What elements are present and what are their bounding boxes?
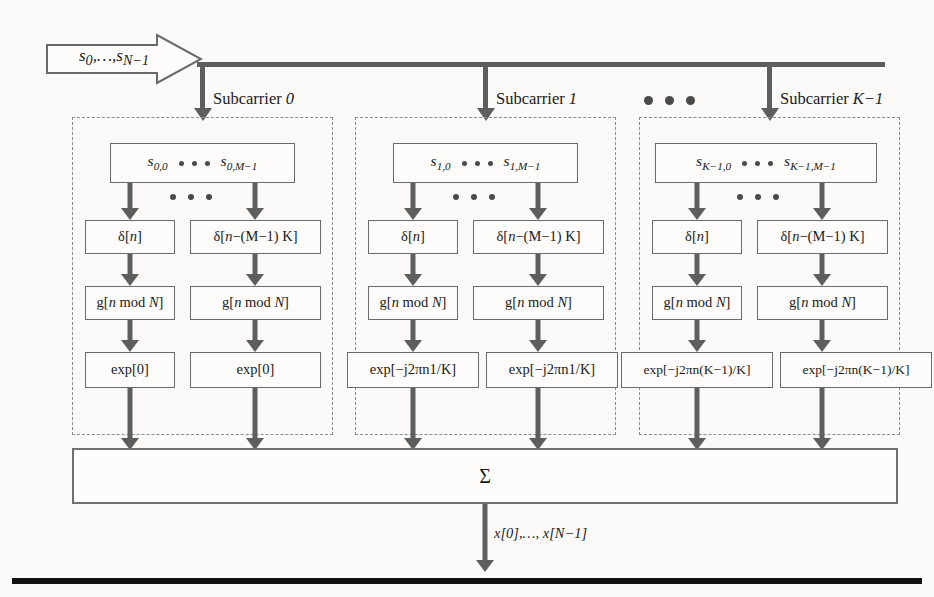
symbol-box-k-1: sK−1,0 sK−1,M−1 (655, 143, 877, 183)
g-box-0-1: g[n mod N] (190, 286, 321, 320)
exp-box-1-1: exp[−j2πn1/K] (486, 352, 618, 388)
arrow-delta-to-g-k-1-0 (677, 254, 717, 286)
g-box-0-0: g[n mod N] (85, 286, 175, 320)
arrow-delta-to-g-0-1 (235, 254, 275, 286)
g-box-k-1-1: g[n mod N] (757, 286, 888, 320)
symbol-box-1: s1,0 s1,M−1 (393, 143, 578, 183)
distribution-bus (197, 62, 885, 67)
exp-box-0-0: exp[0] (85, 352, 175, 388)
arrow-symbol-to-delta-k-1-1 (802, 183, 842, 220)
delta-box-0-1: δ[n−(M−1) K] (190, 220, 321, 254)
arrow-g-to-exp-k-1-0 (677, 320, 717, 352)
delta-box-k-1-1: δ[n−(M−1) K] (757, 220, 888, 254)
arrow-exp-to-sum-0-0 (110, 388, 150, 450)
g-box-k-1-0: g[n mod N] (652, 286, 742, 320)
branch-ellipsis-k-1 (737, 194, 779, 200)
arrow-exp-to-sum-k-1-0 (677, 388, 717, 450)
arrow-symbol-to-delta-1-1 (518, 183, 558, 220)
output-signal-label: x[0],…, x[N−1] (494, 525, 587, 542)
arrow-g-to-exp-0-0 (110, 320, 150, 352)
g-box-1-1: g[n mod N] (473, 286, 604, 320)
exp-box-k-1-1: exp[−j2πn(K−1)/K] (780, 352, 932, 388)
input-block-arrow: s0,…,sN−1 (45, 33, 203, 85)
diagram-canvas: s0,…,sN−1 Subcarrier 0 Subcarrier 1 Subc… (0, 0, 934, 597)
arrow-delta-to-g-k-1-1 (802, 254, 842, 286)
arrow-exp-to-sum-0-1 (235, 388, 275, 450)
delta-box-k-1-0: δ[n] (652, 220, 742, 254)
delta-box-1-1: δ[n−(M−1) K] (473, 220, 604, 254)
arrow-exp-to-sum-1-0 (393, 388, 433, 450)
exp-box-0-1: exp[0] (190, 352, 321, 388)
subcarrier-ellipsis (644, 96, 695, 105)
exp-box-1-0: exp[−j2πn1/K] (347, 352, 479, 388)
delta-box-1-0: δ[n] (368, 220, 458, 254)
subcarrier-caption-1: Subcarrier 1 (496, 89, 577, 109)
bus-drop-subcarrier-k-1 (767, 62, 772, 110)
symbol-box-ellipsis-0 (179, 161, 210, 166)
arrow-exp-to-sum-k-1-1 (802, 388, 842, 450)
delta-box-0-0: δ[n] (85, 220, 175, 254)
arrow-delta-to-g-0-0 (110, 254, 150, 286)
branch-ellipsis-1 (453, 194, 495, 200)
page-rule (12, 578, 922, 584)
symbol-box-ellipsis-1 (462, 161, 493, 166)
exp-box-k-1-0: exp[−j2πn(K−1)/K] (621, 352, 773, 388)
arrow-exp-to-sum-1-1 (518, 388, 558, 450)
arrow-delta-to-g-1-1 (518, 254, 558, 286)
branch-ellipsis-0 (170, 194, 212, 200)
arrow-symbol-to-delta-k-1-0 (677, 183, 717, 220)
arrow-g-to-exp-0-1 (235, 320, 275, 352)
arrow-g-to-exp-1-1 (518, 320, 558, 352)
bus-drop-subcarrier-1 (483, 62, 488, 110)
arrow-g-to-exp-k-1-1 (802, 320, 842, 352)
symbol-box-0: s0,0 s0,M−1 (110, 143, 295, 183)
arrow-delta-to-g-1-0 (393, 254, 433, 286)
bus-drop-subcarrier-0 (200, 62, 205, 110)
arrow-symbol-to-delta-0-0 (110, 183, 150, 220)
arrow-symbol-to-delta-0-1 (235, 183, 275, 220)
arrow-symbol-to-delta-1-0 (393, 183, 433, 220)
subcarrier-caption-0: Subcarrier 0 (213, 89, 294, 109)
input-symbol-label: s0,…,sN−1 (59, 46, 169, 69)
g-box-1-0: g[n mod N] (368, 286, 458, 320)
subcarrier-caption-k-1: Subcarrier K−1 (780, 89, 883, 109)
summation-block: Σ (72, 448, 898, 504)
arrow-g-to-exp-1-0 (393, 320, 433, 352)
symbol-box-ellipsis-k-1 (742, 161, 773, 166)
